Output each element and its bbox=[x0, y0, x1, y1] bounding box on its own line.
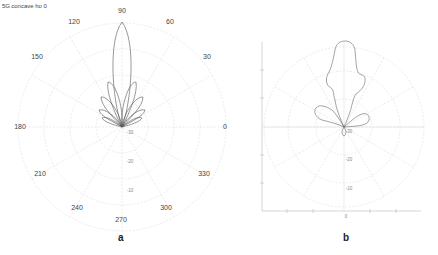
svg-text:-20: -20 bbox=[127, 159, 134, 164]
panel-label-a: a bbox=[118, 232, 124, 243]
polar-chart-a: 90 60 120 30 150 0 180 210 330 240 300 2… bbox=[14, 7, 227, 231]
svg-text:150: 150 bbox=[31, 53, 43, 60]
svg-text:-10: -10 bbox=[346, 186, 353, 191]
svg-text:-30: -30 bbox=[346, 129, 353, 134]
svg-text:-30: -30 bbox=[127, 130, 134, 135]
panel-label-b: b bbox=[343, 232, 349, 243]
svg-text:240: 240 bbox=[71, 204, 83, 211]
polar-chart-b: -30 -20 -10 0 bbox=[260, 41, 424, 219]
svg-text:30: 30 bbox=[203, 53, 211, 60]
svg-text:270: 270 bbox=[115, 216, 127, 223]
svg-text:60: 60 bbox=[166, 18, 174, 25]
svg-text:0: 0 bbox=[223, 123, 227, 130]
svg-text:-20: -20 bbox=[346, 157, 353, 162]
pattern-b bbox=[315, 41, 369, 136]
svg-text:-10: -10 bbox=[127, 188, 134, 193]
svg-text:180: 180 bbox=[14, 123, 26, 130]
svg-text:120: 120 bbox=[68, 18, 80, 25]
axes-b bbox=[260, 42, 424, 213]
svg-text:300: 300 bbox=[160, 204, 172, 211]
svg-text:90: 90 bbox=[118, 7, 126, 14]
svg-text:210: 210 bbox=[34, 170, 46, 177]
radial-tick-labels-a: -30 -20 -10 bbox=[127, 130, 134, 193]
radial-tick-labels-b: -30 -20 -10 0 bbox=[345, 129, 353, 219]
x-tick-0: 0 bbox=[345, 214, 348, 219]
angular-tick-labels-a: 90 60 120 30 150 0 180 210 330 240 300 2… bbox=[14, 7, 227, 223]
svg-text:330: 330 bbox=[198, 170, 210, 177]
polar-charts: 90 60 120 30 150 0 180 210 330 240 300 2… bbox=[0, 0, 438, 255]
